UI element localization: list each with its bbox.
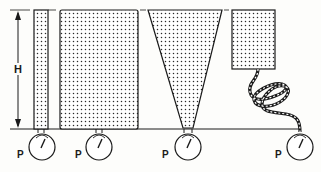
height-label: H <box>14 63 22 75</box>
gauge-label-1: P <box>17 149 24 160</box>
hydrostatic-pressure-diagram: H <box>0 0 321 172</box>
vessel-wide-tank <box>60 10 138 133</box>
pressure-gauge-2 <box>86 134 112 160</box>
gauge-label-4: P <box>275 149 282 160</box>
vessel-narrow-tube <box>34 10 48 133</box>
coiled-hose <box>250 69 300 132</box>
gauge-label-2: P <box>75 149 82 160</box>
pressure-gauge-4 <box>287 134 313 160</box>
pressure-gauge-1 <box>29 134 55 160</box>
vessel-inverted-cone <box>148 10 222 133</box>
pressure-gauge-3 <box>175 134 201 160</box>
vessel-box-with-coiled-hose <box>232 10 300 132</box>
gauge-label-3: P <box>162 149 169 160</box>
